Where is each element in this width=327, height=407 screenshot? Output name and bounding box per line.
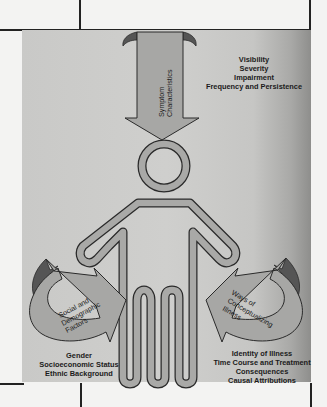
symptom-item: Impairment [234,73,274,82]
conceptualizing-list: Identity of Illness Time Course and Trea… [213,349,311,385]
illness-model-diagram: Symptom Characteristics Visibility Sever… [0,0,327,407]
symptom-arrow-body [125,32,199,140]
symptom-item: Frequency and Persistence [206,82,302,91]
social-demographic-list: Gender Socioeconomic Status Ethnic Backg… [39,351,118,378]
social-item: Socioeconomic Status [39,360,118,369]
symptom-characteristics-list: Visibility Severity Impairment Frequency… [206,55,302,91]
social-item: Gender [66,351,92,360]
symptom-item: Visibility [239,55,270,64]
person-figure [80,144,236,384]
conceptualizing-item: Consequences [236,367,289,376]
social-item: Ethnic Background [45,369,113,378]
symptom-arrow-label-line2: Characteristics [165,69,174,117]
symptom-item: Severity [240,64,270,73]
conceptualizing-item: Identity of Illness [232,349,292,358]
conceptualizing-item: Causal Attributions [228,376,296,385]
symptom-arrow: Symptom Characteristics [123,32,199,140]
symptom-arrow-left-curl [123,32,137,46]
social-demographic-arrow: Social and Demographic Factors [30,259,126,342]
conceptualizing-item: Time Course and Treatment [213,358,311,367]
conceptualizing-arrow: Ways of Conceptualizing Illness [206,258,302,342]
symptom-arrow-right-curl [183,32,196,46]
